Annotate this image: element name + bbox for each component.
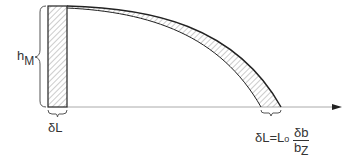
formula-numerator: δb [293, 126, 309, 141]
formula-den-sub: Z [301, 144, 308, 156]
width-brace-right [261, 110, 281, 116]
height-brace [35, 6, 46, 107]
height-label-sub: M [24, 54, 34, 68]
outer-curve [67, 6, 281, 107]
left-hatched-block [48, 6, 67, 107]
formula-lhs: δL=L [255, 130, 284, 145]
formula-denominator: bZ [293, 141, 309, 155]
formula-lhs-sub: o [284, 134, 289, 144]
formula-label: δL=Lo δb bZ [255, 124, 309, 153]
width-left-label: δL [48, 121, 62, 134]
axis-arrowhead [332, 104, 342, 110]
height-label: hM [17, 49, 34, 62]
width-brace-left [48, 110, 67, 117]
formula-fraction: δb bZ [293, 126, 309, 155]
